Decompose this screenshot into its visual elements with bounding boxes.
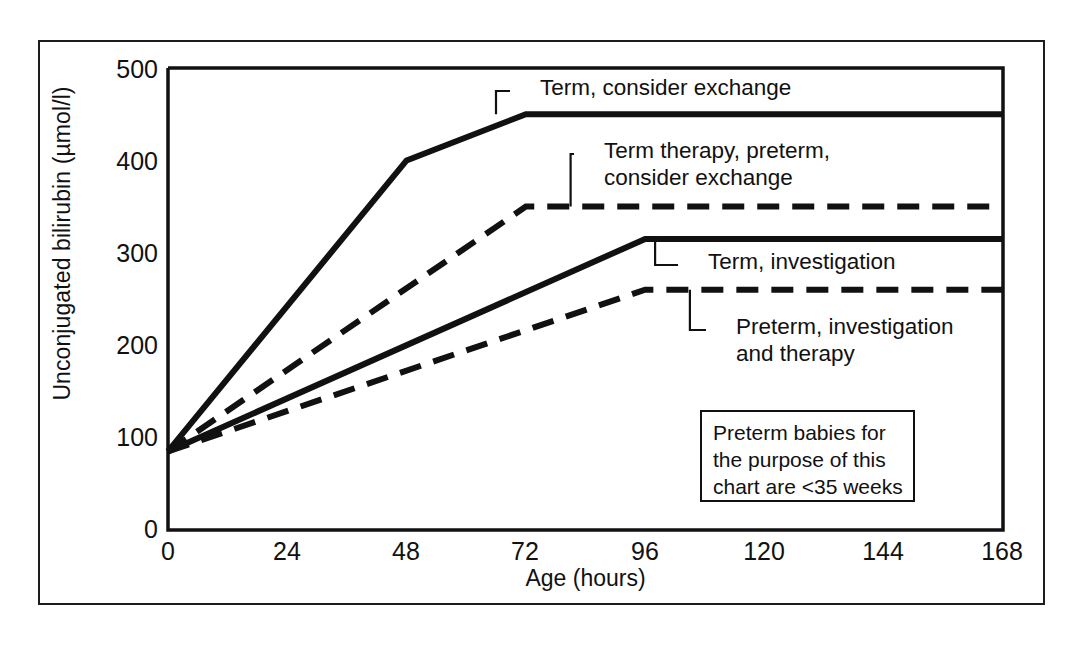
annotation-preterm-investigation-therapy: Preterm, investigation and therapy — [736, 313, 954, 367]
leader-line-3 — [690, 290, 706, 330]
chart-figure: Unconjugated bilirubin (µmol/l) 500 400 … — [0, 0, 1071, 648]
leader-line-0 — [496, 91, 510, 114]
annotation-term-therapy-preterm-exchange: Term therapy, preterm, consider exchange — [604, 137, 830, 191]
series-group — [168, 114, 1003, 451]
note-box-preterm-definition: Preterm babies for the purpose of this c… — [700, 410, 915, 502]
annotation-term-investigation: Term, investigation — [708, 248, 896, 275]
annotation-term-consider-exchange: Term, consider exchange — [540, 74, 791, 101]
series-line-0 — [168, 114, 1003, 451]
leader-line-1 — [571, 154, 574, 207]
leader-line-2 — [655, 239, 678, 265]
